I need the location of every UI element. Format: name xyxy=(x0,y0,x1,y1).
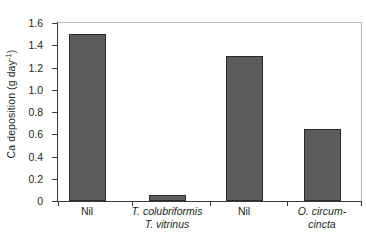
x-axis-category-label: O. circum-cincta xyxy=(277,205,366,230)
y-axis-tick: 0.2 xyxy=(52,179,58,180)
y-axis-tick-label: 1.2 xyxy=(28,62,43,74)
bar xyxy=(69,34,106,201)
y-axis-tick: 1.2 xyxy=(52,68,58,69)
x-axis-category-label-line: T. colubriformis xyxy=(107,205,227,218)
y-axis-tick: 1.0 xyxy=(52,90,58,91)
y-axis-tick-label: 0.2 xyxy=(28,173,43,185)
y-axis-tick-label: 0.6 xyxy=(28,128,43,140)
x-axis-category-label-line: O. circum- xyxy=(277,205,366,218)
y-axis-tick-label: 1.6 xyxy=(28,17,43,29)
bar xyxy=(304,129,341,201)
x-axis-category-label-line: cincta xyxy=(277,218,366,231)
y-axis-title-container: Ca deposition (g day-1) xyxy=(0,0,20,210)
x-axis-category-label-line: Nil xyxy=(214,205,274,218)
y-axis-tick: 0.6 xyxy=(52,134,58,135)
y-axis-tick-label: 0.8 xyxy=(28,106,43,118)
x-axis-category-label-line: T. vitrinus xyxy=(107,218,227,231)
y-axis-tick-label: 1.4 xyxy=(28,39,43,51)
x-axis-labels: NilT. colubriformisT. vitrinusNilO. circ… xyxy=(57,205,362,242)
x-axis-category-label: T. colubriformisT. vitrinus xyxy=(107,205,227,230)
y-axis-title-text: Ca deposition (g day xyxy=(5,60,17,158)
y-axis-title-exponent: -1 xyxy=(4,53,13,60)
y-axis-tick-label: 0.4 xyxy=(28,151,43,163)
bar xyxy=(226,56,263,201)
y-axis-tick-label: 0 xyxy=(37,195,43,207)
y-axis-tick: 0.8 xyxy=(52,112,58,113)
plot-area: 00.20.40.60.81.01.21.41.6 xyxy=(57,22,362,202)
y-axis-tick-label: 1.0 xyxy=(28,84,43,96)
x-axis-category-label: Nil xyxy=(214,205,274,218)
bar-chart-figure: Ca deposition (g day-1) 00.20.40.60.81.0… xyxy=(0,0,366,242)
y-axis-tick: 1.6 xyxy=(52,23,58,24)
y-axis-title-suffix: ) xyxy=(5,50,17,54)
y-axis-tick: 0.4 xyxy=(52,157,58,158)
y-axis-title: Ca deposition (g day-1) xyxy=(5,11,17,197)
y-axis-tick: 1.4 xyxy=(52,45,58,46)
bar xyxy=(149,195,186,201)
